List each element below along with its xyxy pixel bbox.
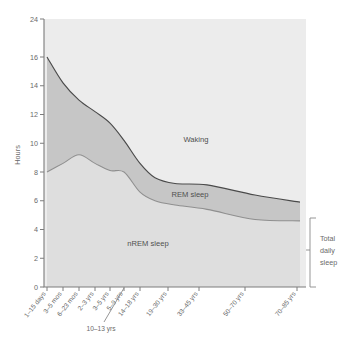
region-label-waking: Waking [183,135,208,144]
y-tick-label-6: 6 [34,196,38,205]
y-tick-label-16: 16 [30,53,38,62]
y-tick-label-0: 0 [34,283,38,292]
x-axis-tick-labels: 1–15 days3–5 mos6–23 mos2–3 yrs3–5 yrs5–… [23,290,298,319]
x-tick-label-19-30-yrs: 19–30 yrs [144,290,169,318]
bracket-label-line3: sleep [320,258,337,267]
y-axis-ticks [40,19,44,287]
x-tick-label-50-70-yrs: 50–70 yrs [221,290,246,318]
sleep-across-lifespan-chart: 024681012141624 1–15 days3–5 mos6–23 mos… [0,0,351,351]
chart-svg: 024681012141624 1–15 days3–5 mos6–23 mos… [0,0,351,351]
y-tick-label-12: 12 [30,110,38,119]
y-tick-label-4: 4 [34,225,38,234]
y-tick-label-2: 2 [34,254,38,263]
x-tick-label-1-15-days: 1–15 days [23,290,48,319]
y-tick-label-14: 14 [30,81,38,90]
x-tick-label-10-13-yrs: 10–13 yrs [87,325,117,333]
region-label-rem-sleep: REM sleep [171,190,208,199]
y-axis-tick-labels: 024681012141624 [30,15,38,292]
total-daily-sleep-bracket [310,218,316,287]
x-tick-label-33-45-yrs: 33–45 yrs [175,290,200,318]
bracket-label-line1: Total [320,234,336,243]
x-tick-label-70-85-yrs: 70–85 yrs [273,290,298,318]
x-axis-ticks [47,287,297,291]
y-axis-title: Hours [13,145,22,165]
y-tick-label-8: 8 [34,168,38,177]
y-tick-label-24: 24 [30,15,38,24]
region-label-nrem-sleep: nREM sleep [127,239,168,248]
bracket-label-line2: daily [320,246,335,255]
y-tick-label-10: 10 [30,139,38,148]
